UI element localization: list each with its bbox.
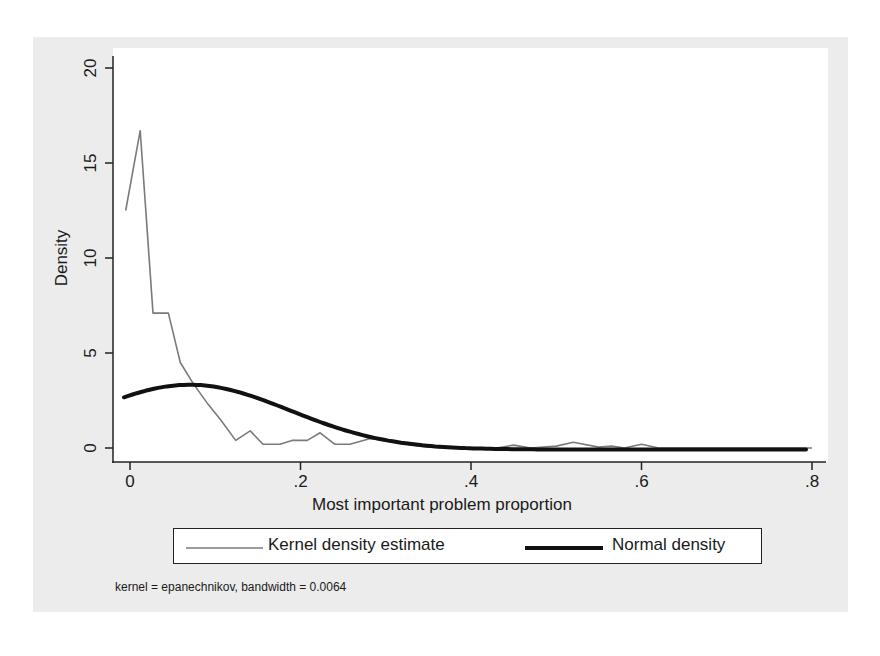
legend: Kernel density estimate Normal density [173, 528, 762, 564]
x-tick-label: .6 [634, 472, 648, 491]
legend-kernel-swatch [186, 546, 264, 550]
y-tick-label: 5 [81, 348, 100, 357]
y-tick-label: 0 [81, 443, 100, 452]
x-tick-label: .8 [805, 472, 819, 491]
y-tick-label: 15 [81, 154, 100, 173]
legend-normal-label: Normal density [612, 535, 725, 555]
kernel-note: kernel = epanechnikov, bandwidth = 0.006… [115, 580, 346, 594]
y-ticks: 05101520 [81, 59, 113, 453]
x-tick-label: 0 [125, 472, 134, 491]
x-axis-title: Most important problem proportion [312, 495, 572, 515]
legend-kernel-label: Kernel density estimate [268, 535, 445, 555]
x-tick-label: .4 [464, 472, 478, 491]
y-axis-title: Density [52, 230, 72, 287]
y-tick-label: 10 [81, 249, 100, 268]
plot-area [113, 48, 828, 462]
x-ticks: 0.2.4.6.8 [125, 462, 819, 491]
legend-normal-swatch [525, 545, 604, 551]
x-tick-label: .2 [293, 472, 307, 491]
y-tick-label: 20 [81, 59, 100, 78]
